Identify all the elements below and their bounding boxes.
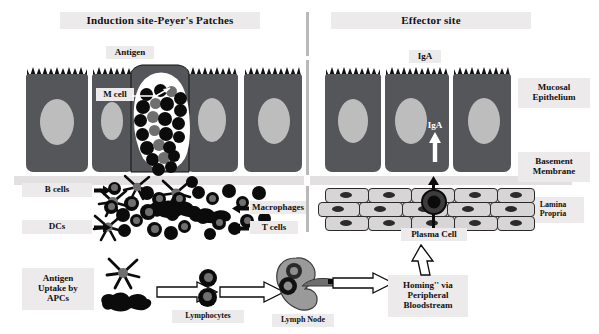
label-iga-lumen-text: IgA xyxy=(418,52,433,62)
label-basement-membrane: Basement Membrane xyxy=(518,152,590,182)
lamina-propria-nucleus xyxy=(383,192,395,198)
macrophage-icon xyxy=(186,206,234,224)
label-dcs: DCs xyxy=(22,220,92,234)
label-homing-text: Homing'' via Peripheral Bloodstream xyxy=(403,281,453,310)
lamina-propria-nucleus xyxy=(462,206,474,212)
immune-cell xyxy=(118,224,131,237)
header-effector-site: Effector site xyxy=(331,12,531,29)
label-plasma-cell-text: Plasma Cell xyxy=(411,230,457,240)
lamina-propria-nucleus xyxy=(469,220,481,226)
plasma-cell-arrow-up xyxy=(427,176,440,188)
label-dcs-text: DCs xyxy=(49,222,66,232)
header-induction-site: Induction site-Peyer's Patches xyxy=(60,12,260,29)
m-cell-lymphocyte xyxy=(172,117,185,130)
section-divider-top xyxy=(306,12,309,56)
immune-cell xyxy=(252,186,266,200)
hollow-arrow-up-icon xyxy=(408,244,434,276)
epithelial-nucleus-right-1 xyxy=(338,99,368,143)
lamina-propria-nucleus xyxy=(469,192,481,198)
header-induction-site-label: Induction site-Peyer's Patches xyxy=(86,15,233,27)
immune-cell xyxy=(108,203,115,210)
immune-cell xyxy=(196,210,210,224)
immune-cell xyxy=(192,186,205,199)
immune-cell xyxy=(116,208,130,222)
dcs-arrow xyxy=(94,222,112,233)
lamina-propria-nucleus xyxy=(510,192,522,198)
immune-cell xyxy=(222,184,236,198)
immune-cell xyxy=(176,195,183,202)
label-lymphocytes: Lymphocytes xyxy=(172,310,244,323)
immune-cell xyxy=(209,195,216,202)
lamina-propria-nucleus xyxy=(332,206,344,212)
epithelial-nucleus-left-2 xyxy=(101,102,123,140)
label-iga-lumen: IgA xyxy=(409,50,441,63)
label-b-cells: B cells xyxy=(22,183,92,197)
label-homing: Homing'' via Peripheral Bloodstream xyxy=(388,275,468,317)
immune-cell xyxy=(128,199,136,207)
immune-cell xyxy=(133,217,140,224)
label-t-cells-text: T cells xyxy=(262,223,287,233)
immune-cell xyxy=(151,225,159,233)
label-m-cell-text: M cell xyxy=(103,90,127,100)
m-cell-lymphocyte xyxy=(165,161,177,173)
immune-cell xyxy=(166,208,179,221)
immune-cell xyxy=(145,208,153,216)
section-divider-mid xyxy=(306,60,309,175)
label-basement-membrane-text: Basement Membrane xyxy=(533,157,576,176)
lamina-propria-nucleus xyxy=(340,192,352,198)
label-lamina-propria-text: Lamina Propria xyxy=(540,201,567,218)
label-lymph-node: Lymph Node xyxy=(272,314,334,327)
label-antigen-text: Antigen xyxy=(115,48,146,58)
m-cell-lymphocyte xyxy=(134,114,147,127)
dendritic-cell-icon xyxy=(104,256,142,290)
label-iga-transcytosis-text: IgA xyxy=(428,121,443,131)
label-antigen: Antigen xyxy=(106,46,154,59)
m-cell-lymphocyte xyxy=(174,104,187,117)
lamina-propria-nucleus xyxy=(505,206,517,212)
m-cell-lymphocyte xyxy=(158,112,172,126)
macrophages-arrow xyxy=(232,203,250,214)
label-m-cell: M cell xyxy=(96,88,134,101)
label-b-cells-text: B cells xyxy=(45,185,70,195)
epithelial-nucleus-left-1 xyxy=(40,99,74,145)
m-cell-lymphocyte xyxy=(173,131,185,143)
immune-cell xyxy=(216,219,223,226)
label-macrophages-text: Macrophages xyxy=(252,203,304,213)
immune-cell xyxy=(181,223,188,230)
label-macrophages: Macrophages xyxy=(250,201,306,214)
label-antigen-uptake: Antigen Uptake by APCs xyxy=(22,268,94,310)
label-mucosal-epithelium-text: Mucosal Epithelium xyxy=(532,83,575,102)
label-plasma-cell: Plasma Cell xyxy=(401,228,467,241)
label-t-cells: T cells xyxy=(250,221,298,234)
label-lymphocytes-text: Lymphocytes xyxy=(185,312,230,321)
t-cells-arrow xyxy=(232,223,250,234)
section-divider-lower xyxy=(306,186,309,232)
plasma-cell-icon xyxy=(421,189,447,215)
m-cell-lymphocyte xyxy=(136,128,149,141)
m-cell-leader-line xyxy=(130,84,174,106)
lymphocyte-nucleus xyxy=(204,273,213,282)
immune-cell xyxy=(111,184,118,191)
m-cell-lymphocyte xyxy=(152,163,165,176)
epithelial-nucleus-left-4 xyxy=(258,98,290,144)
white-up-arrow-icon xyxy=(428,132,442,162)
lamina-propria-nucleus xyxy=(510,220,522,226)
epithelial-nucleus-right-3 xyxy=(468,98,500,144)
header-effector-site-label: Effector site xyxy=(401,15,461,27)
b-cells-arrow xyxy=(94,185,112,196)
immune-cell xyxy=(164,226,178,240)
epithelial-nucleus-left-3 xyxy=(198,98,226,142)
label-iga-transcytosis: IgA xyxy=(420,120,450,132)
macrophage-icon xyxy=(98,290,154,314)
lamina-propria-nucleus xyxy=(374,206,386,212)
label-mucosal-epithelium: Mucosal Epithelium xyxy=(518,78,590,108)
hollow-arrow-icon xyxy=(332,272,394,294)
immune-cell xyxy=(156,195,163,202)
label-antigen-uptake-text: Antigen Uptake by APCs xyxy=(38,274,78,303)
lamina-propria-nucleus xyxy=(383,220,395,226)
lymphocyte-nucleus xyxy=(203,292,212,301)
lamina-propria-nucleus xyxy=(340,220,352,226)
figure-canvas: Induction site-Peyer's Patches Effector … xyxy=(0,0,599,334)
immune-cell xyxy=(204,228,216,240)
label-lymph-node-text: Lymph Node xyxy=(281,316,325,325)
